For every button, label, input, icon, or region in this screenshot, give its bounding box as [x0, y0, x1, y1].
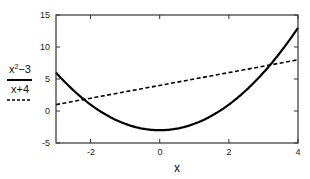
chart: 15 10 5 0 -5 -2 0 2 4 x x2−3 x+4: [0, 0, 310, 179]
x-tick-label-0: 0: [157, 147, 162, 157]
axis-ticks: [56, 15, 298, 143]
legend-label-series-1: x2−3: [9, 63, 31, 75]
x-tick-label-4: 4: [295, 147, 300, 157]
legend: x2−3 x+4: [7, 63, 32, 100]
y-tick-label-0: 0: [45, 106, 50, 116]
legend-label-series-2: x+4: [11, 83, 29, 95]
plot-area: [56, 28, 298, 130]
x-tick-label-2: 2: [226, 147, 231, 157]
x-tick-label-neg2: -2: [87, 147, 95, 157]
x-axis-label: x: [174, 161, 180, 175]
series-line-1: [56, 28, 298, 130]
series-line-2: [56, 60, 298, 105]
y-tick-label-10: 10: [40, 42, 50, 52]
plot-frame: [56, 15, 298, 143]
y-tick-label-neg5: -5: [42, 138, 50, 148]
y-tick-label-5: 5: [45, 74, 50, 84]
y-tick-label-15: 15: [40, 10, 50, 20]
